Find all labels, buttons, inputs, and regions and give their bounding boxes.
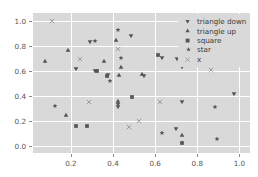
legend-item-label: square bbox=[195, 36, 222, 45]
data-point-star bbox=[119, 55, 124, 60]
legend-item-triangle-down: triangle down bbox=[181, 17, 246, 26]
gridline-vertical bbox=[113, 13, 114, 153]
data-point-star bbox=[53, 103, 58, 108]
data-point-triangle-down bbox=[231, 91, 237, 97]
data-point-triangle-up bbox=[42, 58, 48, 64]
x-axis-tick-mark bbox=[113, 154, 114, 157]
x-axis-tick-mark bbox=[71, 154, 72, 157]
data-point-star bbox=[107, 79, 112, 84]
data-point-square bbox=[74, 124, 79, 129]
data-point-square bbox=[95, 69, 100, 74]
x-axis-tick-mark bbox=[155, 154, 156, 157]
scatter-chart-figure: 0.00.20.40.60.81.00.20.40.60.81.0 triang… bbox=[0, 0, 258, 177]
x-axis-tick-label: 0.4 bbox=[107, 159, 118, 168]
legend-item-label: triangle up bbox=[195, 27, 236, 36]
data-point-x bbox=[137, 118, 143, 124]
data-point-triangle-down bbox=[73, 66, 79, 72]
legend-item-label: triangle down bbox=[195, 17, 246, 26]
y-axis-tick-mark bbox=[29, 121, 32, 122]
data-point-square bbox=[179, 141, 184, 146]
data-point-triangle-up bbox=[101, 58, 107, 64]
legend-item-label: x bbox=[195, 55, 201, 64]
y-axis-tick-label: 0.0 bbox=[0, 141, 26, 150]
data-point-star bbox=[213, 104, 218, 109]
triangle-down-icon bbox=[181, 19, 195, 24]
data-point-triangle-down bbox=[173, 126, 179, 132]
data-point-triangle-up bbox=[179, 132, 185, 138]
legend-item-star: star bbox=[181, 45, 246, 54]
x-axis-tick-mark bbox=[197, 154, 198, 157]
x-icon bbox=[181, 57, 195, 62]
data-point-triangle-down bbox=[128, 33, 134, 39]
star-icon bbox=[181, 47, 195, 52]
y-axis-tick-label: 0.6 bbox=[0, 66, 26, 75]
square-icon bbox=[181, 38, 195, 43]
data-point-star bbox=[215, 137, 220, 142]
data-point-triangle-up bbox=[113, 37, 119, 43]
data-point-x bbox=[126, 124, 132, 130]
data-point-triangle-up bbox=[117, 72, 123, 78]
data-point-star bbox=[116, 101, 121, 106]
data-point-x bbox=[78, 56, 84, 62]
legend-item-label: star bbox=[195, 45, 211, 54]
triangle-up-icon bbox=[181, 28, 195, 33]
data-point-square bbox=[156, 52, 161, 57]
legend-item-square: square bbox=[181, 36, 246, 45]
y-axis-tick-mark bbox=[29, 96, 32, 97]
data-point-x bbox=[49, 18, 55, 24]
legend-item-triangle-up: triangle up bbox=[181, 26, 246, 35]
x-axis-tick-label: 0.6 bbox=[149, 159, 160, 168]
data-point-triangle-up bbox=[139, 71, 145, 77]
y-axis-tick-mark bbox=[29, 21, 32, 22]
x-axis-tick-label: 1.0 bbox=[234, 159, 245, 168]
y-axis-tick-mark bbox=[29, 71, 32, 72]
data-point-x bbox=[86, 99, 92, 105]
gridline-horizontal bbox=[33, 96, 250, 97]
data-point-star bbox=[93, 38, 98, 43]
y-axis-tick-label: 0.8 bbox=[0, 41, 26, 50]
y-axis-tick-mark bbox=[29, 146, 32, 147]
y-axis-tick-label: 1.0 bbox=[0, 16, 26, 25]
data-point-triangle-up bbox=[63, 112, 69, 118]
data-point-triangle-up bbox=[65, 47, 71, 53]
data-point-x bbox=[116, 46, 122, 52]
data-point-star bbox=[159, 130, 164, 135]
y-axis-tick-label: 0.4 bbox=[0, 91, 26, 100]
y-axis-tick-label: 0.2 bbox=[0, 116, 26, 125]
data-point-square bbox=[130, 94, 135, 99]
gridline-vertical bbox=[155, 13, 156, 153]
data-point-triangle-up bbox=[119, 65, 125, 71]
x-axis-tick-label: 0.8 bbox=[192, 159, 203, 168]
data-point-x bbox=[158, 100, 164, 106]
x-axis-tick-label: 0.2 bbox=[65, 159, 76, 168]
x-axis-tick-mark bbox=[239, 154, 240, 157]
data-point-star bbox=[116, 27, 121, 32]
legend-item-x: x bbox=[181, 55, 246, 64]
y-axis-tick-mark bbox=[29, 46, 32, 47]
data-point-x bbox=[208, 67, 214, 73]
gridline-horizontal bbox=[33, 146, 250, 147]
chart-legend: triangle downtriangle upsquarestarx bbox=[178, 14, 250, 67]
gridline-vertical bbox=[71, 13, 72, 153]
data-point-triangle-down bbox=[179, 99, 185, 105]
data-point-square bbox=[84, 124, 89, 129]
